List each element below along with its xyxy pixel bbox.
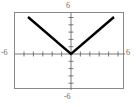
axis-label-left: -6 (1, 48, 7, 57)
axis-label-bottom: -6 (64, 92, 70, 101)
coordinate-plane (15, 13, 125, 90)
graphing-calculator-screen: 6 -6 -6 6 (0, 0, 137, 107)
plot-frame (14, 12, 124, 89)
axis-label-right: 6 (126, 48, 130, 57)
axis-label-top: 6 (66, 1, 70, 10)
